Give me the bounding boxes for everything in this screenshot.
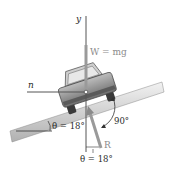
n-axis-label: n	[28, 80, 34, 90]
reaction-vector	[90, 113, 101, 148]
incline-angle-label: θ = 18°	[52, 121, 85, 131]
incline-free-body-diagram: y W = mg n θ = 18° 90° R θ = 18°	[0, 0, 179, 178]
reaction-label: R	[104, 140, 111, 150]
center-of-mass-dot	[84, 90, 88, 94]
right-angle-arrowhead-bottom	[101, 124, 106, 128]
y-axis-label: y	[75, 14, 82, 24]
right-angle-label: 90°	[114, 116, 129, 126]
reaction-angle-label: θ = 18°	[80, 154, 113, 164]
weight-label: W = mg	[90, 47, 127, 57]
